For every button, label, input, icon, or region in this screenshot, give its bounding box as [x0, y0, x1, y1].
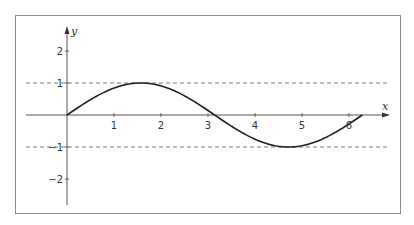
x-axis-arrow-icon [382, 113, 390, 118]
ticks: 12345621−1−2 [48, 46, 352, 185]
x-tick-label: 3 [205, 120, 211, 131]
y-tick-label: 1 [57, 78, 63, 89]
x-tick-label: 4 [252, 120, 258, 131]
x-tick-label: 5 [299, 120, 305, 131]
x-axis-label: x [382, 100, 389, 113]
y-tick-label: −1 [48, 142, 63, 153]
y-axis-label: y [70, 25, 78, 38]
sine-chart: 12345621−1−2 x y [0, 0, 414, 225]
y-tick-label: 2 [57, 46, 63, 57]
x-tick-label: 1 [111, 120, 117, 131]
x-tick-label: 2 [158, 120, 164, 131]
y-axis-arrow-icon [65, 26, 70, 34]
y-tick-label: −2 [48, 174, 63, 185]
